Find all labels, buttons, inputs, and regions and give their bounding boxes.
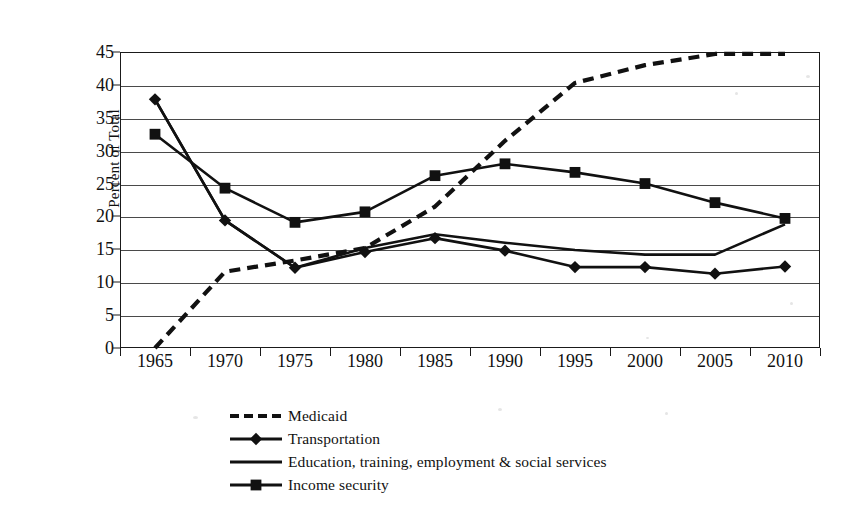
x-axis-tick-label: 1985	[395, 352, 475, 370]
legend-item-label: Medicaid	[288, 408, 347, 424]
scan-speckle	[790, 302, 793, 305]
data-point-marker	[640, 178, 651, 189]
legend-item[interactable]: Education, training, employment & social…	[228, 450, 648, 473]
y-axis-tick-mark	[113, 249, 120, 250]
solid-line-key	[228, 455, 284, 469]
x-axis-tick-label: 2005	[675, 352, 755, 370]
x-axis-tick-label: 1975	[255, 352, 335, 370]
data-point-marker	[780, 213, 791, 224]
data-point-marker	[500, 158, 511, 169]
data-point-marker	[360, 206, 371, 217]
y-axis-tick-mark	[113, 348, 120, 349]
series-line	[155, 99, 785, 267]
data-point-marker	[430, 170, 441, 181]
series-line	[155, 99, 785, 273]
legend-item[interactable]: Medicaid	[228, 404, 648, 427]
y-axis-tick-label: 40	[70, 76, 114, 94]
square-line-key	[228, 478, 284, 492]
y-axis-tick-mark	[113, 183, 120, 184]
legend-item[interactable]: Transportation	[228, 427, 648, 450]
x-axis-tick-label: 1980	[325, 352, 405, 370]
y-axis-tick-label: 45	[70, 43, 114, 61]
data-point-marker	[570, 167, 581, 178]
y-axis-tick-label: 10	[70, 273, 114, 291]
diamond-line-key	[228, 432, 284, 446]
series-2	[149, 93, 791, 280]
series-4	[150, 129, 791, 228]
y-axis-tick-label: 35	[70, 109, 114, 127]
y-axis-tick-mark	[113, 52, 120, 53]
dashed-line-key	[228, 409, 284, 423]
x-axis-tick-labels: 1965197019751980198519901995200020052010	[120, 352, 820, 382]
scan-speckle	[498, 408, 502, 411]
y-axis-tick-label: 30	[70, 142, 114, 160]
scan-speckle	[665, 412, 668, 415]
scan-speckle	[735, 92, 738, 95]
y-axis-tick-label: 25	[70, 175, 114, 193]
series-line	[155, 134, 785, 222]
y-axis-tick-labels: 051015202530354045	[62, 52, 114, 348]
data-point-marker	[709, 267, 721, 279]
plot-wrapper: Percent of Total 051015202530354045 1965…	[0, 0, 852, 400]
data-point-marker	[569, 261, 581, 273]
x-axis-tick-label: 2000	[605, 352, 685, 370]
x-axis-tick-label: 1970	[185, 352, 265, 370]
data-point-marker	[150, 129, 161, 140]
y-axis-tick-mark	[113, 315, 120, 316]
legend-item-label: Income security	[288, 477, 389, 493]
y-axis-tick-label: 20	[70, 207, 114, 225]
x-axis-tick-label: 1995	[535, 352, 615, 370]
legend-item-label: Transportation	[288, 431, 380, 447]
scan-speckle	[646, 337, 649, 339]
y-axis-tick-label: 5	[70, 306, 114, 324]
y-axis-tick-mark	[113, 216, 120, 217]
chart-legend: MedicaidTransportationEducation, trainin…	[228, 404, 648, 496]
y-axis-tick-mark	[113, 150, 120, 151]
y-axis-tick-mark	[113, 84, 120, 85]
data-point-marker	[499, 244, 511, 256]
data-point-marker	[710, 197, 721, 208]
y-axis-tick-mark	[113, 282, 120, 283]
data-point-marker	[290, 217, 301, 228]
y-axis-tick-label: 15	[70, 240, 114, 258]
chart-figure: Percent of Total 051015202530354045 1965…	[0, 0, 852, 523]
legend-item[interactable]: Income security	[228, 473, 648, 496]
data-series-layer	[120, 52, 820, 348]
scan-speckle	[193, 416, 198, 419]
x-axis-tick-label: 1990	[465, 352, 545, 370]
y-axis-tick-mark	[113, 117, 120, 118]
series-3	[155, 99, 785, 267]
y-axis-tick-label: 0	[70, 339, 114, 357]
legend-item-label: Education, training, employment & social…	[288, 454, 607, 470]
scan-speckle	[806, 75, 810, 78]
x-axis-tick-label: 2010	[745, 352, 825, 370]
x-axis-tick-label: 1965	[115, 352, 195, 370]
data-point-marker	[639, 261, 651, 273]
data-point-marker	[220, 183, 231, 194]
data-point-marker	[779, 260, 791, 272]
